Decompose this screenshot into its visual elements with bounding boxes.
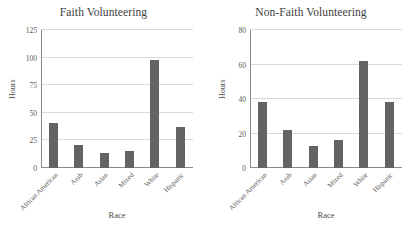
two-panel-bar-chart-figure: Faith Volunteering Hours 0255075100125 A… xyxy=(0,0,415,235)
bar-slot xyxy=(377,30,402,168)
y-tick-label: 25 xyxy=(30,136,38,145)
bar xyxy=(283,130,292,168)
x-tick-labels-right: African AmericanArabAsianMixedWhiteHispa… xyxy=(250,168,402,208)
y-tick-label: 80 xyxy=(239,26,247,35)
bar xyxy=(100,153,109,168)
bar-slot xyxy=(168,30,193,168)
y-tick-label: 40 xyxy=(239,95,247,104)
bar xyxy=(74,145,83,168)
bar-slot xyxy=(117,30,142,168)
x-tick-label: Asian xyxy=(93,171,110,188)
bar-slot xyxy=(66,30,91,168)
chart-panel-non-faith-volunteering: Non-Faith Volunteering Hours 020406080 A… xyxy=(207,0,415,235)
y-axis-label-right: Hours xyxy=(218,79,227,99)
y-tick-label: 100 xyxy=(26,53,37,62)
bar xyxy=(125,151,134,168)
x-tick-slot: African American xyxy=(41,168,66,208)
x-tick-slot: Mixed xyxy=(117,168,142,208)
chart-panel-faith-volunteering: Faith Volunteering Hours 0255075100125 A… xyxy=(0,0,207,235)
x-tick-label: African American xyxy=(227,171,268,212)
y-tick-label: 20 xyxy=(239,129,247,138)
x-tick-slot: African American xyxy=(250,168,275,208)
x-tick-label: Arab xyxy=(278,171,294,187)
x-tick-slot: Mixed xyxy=(326,168,351,208)
bar-group-right xyxy=(250,30,402,168)
plot-area-left: 0255075100125 xyxy=(41,30,193,168)
bar xyxy=(385,102,394,168)
x-tick-label: Mixed xyxy=(117,171,136,190)
bar xyxy=(258,102,267,168)
plot-area-right: 020406080 xyxy=(250,30,402,168)
x-tick-label: African American xyxy=(18,171,59,212)
x-tick-slot: Asian xyxy=(92,168,117,208)
x-tick-slot: Hispanic xyxy=(168,168,193,208)
bar xyxy=(150,60,159,168)
y-tick-label: 0 xyxy=(242,164,246,173)
bar-slot xyxy=(142,30,167,168)
x-tick-label: White xyxy=(143,171,161,189)
y-axis-label-left: Hours xyxy=(8,79,17,99)
y-tick-label: 125 xyxy=(26,26,37,35)
bar-group-left xyxy=(41,30,193,168)
y-tick-label: 60 xyxy=(239,60,247,69)
bar xyxy=(176,127,185,168)
bar-slot xyxy=(92,30,117,168)
x-tick-slot: Arab xyxy=(275,168,300,208)
x-tick-slot: Arab xyxy=(66,168,91,208)
bar xyxy=(334,140,343,168)
bar-slot xyxy=(41,30,66,168)
x-tick-label: Mixed xyxy=(326,171,345,190)
bar-slot xyxy=(275,30,300,168)
x-axis-label-right: Race xyxy=(250,210,402,220)
x-tick-label: Arab xyxy=(69,171,85,187)
y-tick-label: 75 xyxy=(30,81,38,90)
x-tick-labels-left: African AmericanArabAsianMixedWhiteHispa… xyxy=(41,168,193,208)
chart-title-right: Non-Faith Volunteering xyxy=(207,6,415,18)
bar-slot xyxy=(326,30,351,168)
x-axis-label-left: Race xyxy=(41,210,193,220)
y-tick-label: 0 xyxy=(33,164,37,173)
x-tick-slot: Asian xyxy=(301,168,326,208)
bar xyxy=(309,146,318,168)
x-tick-label: White xyxy=(352,171,370,189)
bar xyxy=(49,123,58,168)
bar-slot xyxy=(351,30,376,168)
chart-title-left: Faith Volunteering xyxy=(0,6,207,18)
x-tick-slot: Hispanic xyxy=(377,168,402,208)
bar-slot xyxy=(301,30,326,168)
bar-slot xyxy=(250,30,275,168)
y-tick-label: 50 xyxy=(30,108,38,117)
x-tick-label: Asian xyxy=(302,171,319,188)
bar xyxy=(359,61,368,168)
